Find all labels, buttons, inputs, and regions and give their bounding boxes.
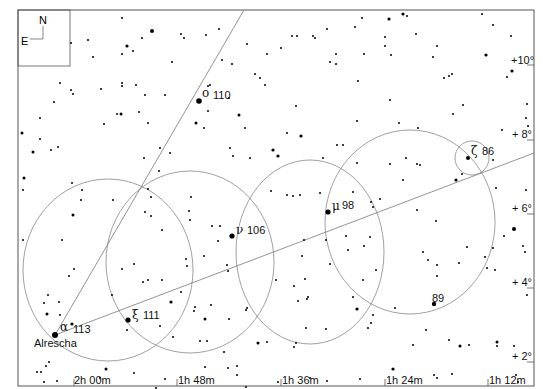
star-mu <box>325 209 330 214</box>
label-89: 89 <box>432 293 444 304</box>
dec-label-4: + 4° <box>512 277 532 288</box>
label-xi-greek: ξ <box>132 309 139 321</box>
dec-label-6: + 6° <box>512 203 532 214</box>
compass-north-label: N <box>39 14 47 26</box>
dec-label-10: +10° <box>511 55 534 66</box>
chart-frame <box>18 10 534 386</box>
star-nu <box>229 233 234 238</box>
label-mu-greek: μ <box>332 200 340 212</box>
dec-label-2: + 2° <box>512 351 532 362</box>
label-zeta-number: 86 <box>482 146 494 157</box>
star-zeta <box>466 156 470 160</box>
finder-circle-1 <box>23 179 193 361</box>
star-xi <box>125 317 130 322</box>
label-omicron-greek: ο <box>202 87 209 99</box>
finder-circle-2 <box>106 171 274 353</box>
compass-east-label: E <box>21 35 28 47</box>
ra-label-1h24m: 1h 24m <box>386 375 423 386</box>
finder-circle-3 <box>236 160 384 344</box>
ra-label-1h48m: 1h 48m <box>178 375 215 386</box>
dec-label-8: + 8° <box>512 129 532 140</box>
label-alpha-greek: α <box>60 321 68 333</box>
label-omicron-number: 110 <box>213 90 231 101</box>
ecliptic-line <box>55 153 534 335</box>
label-zeta-greek: ζ <box>471 145 478 157</box>
ra-label-1h12m: 1h 12m <box>489 375 526 386</box>
finder-circles <box>23 130 495 361</box>
ra-ticks <box>74 379 488 386</box>
label-alrescha: Alrescha <box>34 338 77 349</box>
ra-label-2h00m: 2h 00m <box>74 375 111 386</box>
label-xi-number: 111 <box>143 310 160 321</box>
label-nu-greek: ν <box>236 224 243 236</box>
pointer-line <box>55 10 244 335</box>
star-omicron <box>196 98 202 104</box>
label-alpha-number: 113 <box>73 324 91 335</box>
label-mu-number: 98 <box>342 200 354 211</box>
ra-label-1h36m: 1h 36m <box>282 375 319 386</box>
label-nu-number: 106 <box>247 225 265 236</box>
